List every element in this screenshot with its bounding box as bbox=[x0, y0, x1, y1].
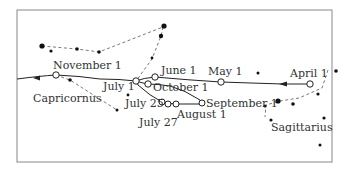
mars-retrograde-diagram: Capricornus Sagittarius November 1 June … bbox=[0, 0, 358, 178]
star-icon bbox=[151, 57, 154, 60]
star-icon bbox=[75, 47, 79, 51]
date-label-june-1: June 1 bbox=[160, 64, 197, 77]
star-icon bbox=[49, 49, 52, 52]
star-icon bbox=[127, 94, 130, 97]
marker-september-1 bbox=[199, 100, 205, 106]
marker-july-27 bbox=[165, 101, 171, 107]
marker-august-1 bbox=[173, 101, 179, 107]
star-icon bbox=[159, 34, 163, 38]
arrow-left-icon bbox=[279, 82, 287, 87]
marker-june-1 bbox=[152, 74, 158, 80]
marker-april-1 bbox=[307, 81, 313, 87]
star-icon bbox=[161, 23, 166, 28]
star-icon bbox=[257, 72, 260, 75]
labels: Capricornus Sagittarius November 1 June … bbox=[33, 59, 333, 134]
date-label-november-1: November 1 bbox=[53, 59, 122, 72]
star-icon bbox=[319, 144, 322, 147]
star-icon bbox=[97, 50, 101, 54]
star-icon bbox=[116, 109, 119, 112]
marker-october-1 bbox=[145, 81, 151, 87]
star-icon bbox=[316, 92, 319, 95]
marker-november-1 bbox=[53, 72, 59, 78]
date-label-july-25: July 25 bbox=[124, 97, 164, 110]
date-label-july-1: July 1 bbox=[102, 80, 135, 93]
star-icon bbox=[291, 102, 295, 106]
marker-may-1 bbox=[218, 79, 224, 85]
star-icon bbox=[322, 116, 325, 119]
star-icon bbox=[334, 69, 338, 73]
constellation-label-sagittarius: Sagittarius bbox=[271, 121, 333, 134]
constellation-label-capricornus: Capricornus bbox=[33, 92, 102, 105]
date-label-april-1: April 1 bbox=[289, 67, 328, 80]
date-label-august-1: August 1 bbox=[176, 108, 227, 121]
date-label-july-27: July 27 bbox=[138, 116, 178, 129]
star-icon bbox=[68, 78, 72, 82]
date-label-october-1: October 1 bbox=[153, 81, 209, 94]
date-label-may-1: May 1 bbox=[208, 65, 243, 78]
star-icon bbox=[39, 43, 44, 48]
